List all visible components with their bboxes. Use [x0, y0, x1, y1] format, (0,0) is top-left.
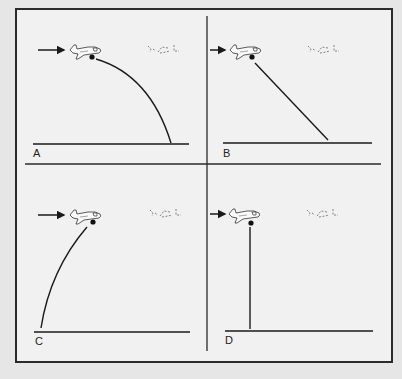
trajectory-line — [255, 63, 328, 140]
dot-icon — [90, 219, 95, 224]
panel-label-b: B — [223, 148, 230, 159]
panel-b — [210, 45, 372, 143]
faded-airplane-icon — [148, 45, 179, 53]
faded-airplane-icon — [308, 45, 339, 53]
dot-icon — [249, 54, 254, 59]
airplane-icon — [70, 45, 101, 59]
panel-a — [33, 45, 189, 144]
panel-c — [34, 209, 190, 332]
trajectory-curve — [96, 59, 171, 143]
trajectory-diagram — [0, 0, 402, 379]
panel-label-d: D — [225, 335, 233, 346]
airplane-icon — [70, 210, 101, 224]
faded-airplane-icon — [307, 209, 338, 217]
panel-label-a: A — [33, 148, 40, 159]
panel-label-c: C — [35, 336, 43, 347]
faded-airplane-icon — [150, 209, 181, 217]
airplane-icon — [230, 45, 261, 59]
trajectory-curve — [41, 227, 87, 328]
dot-icon — [248, 220, 253, 225]
panel-d — [210, 209, 373, 331]
airplane-icon — [229, 209, 260, 223]
dot-icon — [89, 54, 94, 59]
